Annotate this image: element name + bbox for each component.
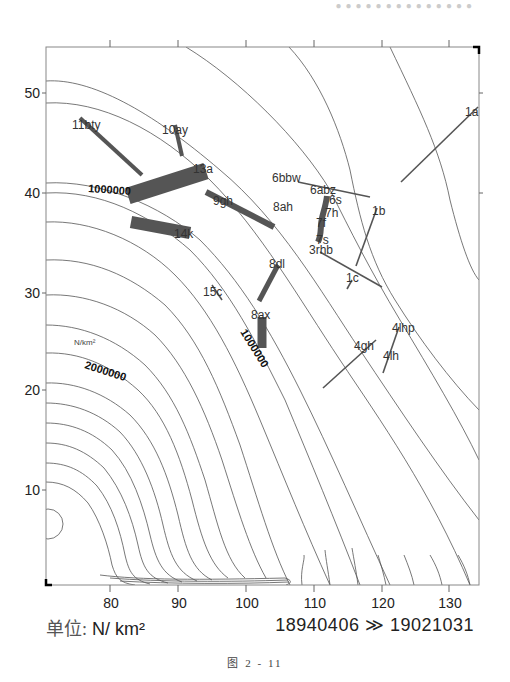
contour-unit-label: N/km² — [74, 338, 96, 347]
label-15c: 15c — [203, 285, 222, 299]
label-7h: 7h — [325, 206, 338, 220]
unit-prefix: 单位: — [46, 619, 87, 639]
y-tick-50: 50 — [24, 85, 40, 101]
label-4lhp: 4lhp — [392, 321, 415, 335]
y-tick-30: 30 — [24, 285, 40, 301]
x-tick-90: 90 — [171, 595, 187, 611]
label-4gh: 4gh — [354, 339, 374, 353]
x-tick-labels: 80 90 100 110 120 130 — [103, 595, 462, 611]
contour-label-2000000: 2000000 — [83, 358, 127, 383]
contour-label-1000000-west: 1000000 — [88, 182, 132, 197]
label-8ax: 8ax — [251, 308, 270, 322]
x-tick-80: 80 — [103, 595, 119, 611]
point-labels: 11bty 10ay 13a 9gh 14k 6bbw 6abz 6s 8ah … — [72, 105, 479, 363]
label-1b: 1b — [372, 204, 386, 218]
label-1c: 1c — [346, 271, 359, 285]
label-14k: 14k — [174, 227, 194, 241]
label-6s: 6s — [329, 193, 342, 207]
x-tick-110: 110 — [304, 595, 327, 611]
unit-label: 单位: N/ km² — [46, 614, 145, 640]
y-tick-20: 20 — [24, 382, 40, 398]
y-tick-labels: 50 40 30 20 10 — [24, 85, 40, 498]
label-1a: 1a — [465, 105, 479, 119]
x-tick-120: 120 — [371, 595, 395, 611]
label-4lh: 4lh — [383, 349, 399, 363]
y-tick-10: 10 — [24, 482, 40, 498]
label-9gh: 9gh — [213, 194, 233, 208]
label-11bty: 11bty — [72, 118, 100, 132]
y-tick-40: 40 — [24, 185, 40, 201]
x-tick-100: 100 — [235, 595, 259, 611]
top-decoration: ●●●●●●●●●●●●●● — [335, 0, 476, 11]
x-ticks-bottom — [110, 585, 449, 592]
period-label: 18940406 ≫ 19021031 — [275, 614, 474, 636]
label-7f: 7f — [316, 216, 327, 230]
figure-caption: 图 2 - 11 — [0, 654, 510, 670]
x-ticks-top — [110, 40, 449, 47]
label-8ah: 8ah — [273, 200, 293, 214]
thick-segments — [80, 118, 327, 348]
unit-value: N/ km² — [87, 619, 145, 639]
label-8dl: 8dl — [269, 257, 285, 271]
label-6bbw: 6bbw — [272, 171, 301, 185]
label-3rhb: 3rhb — [309, 243, 333, 257]
label-13a: 13a — [193, 162, 213, 176]
label-10ay: 10ay — [162, 123, 188, 137]
x-tick-130: 130 — [438, 595, 462, 611]
contour-chart: 50 40 30 20 10 80 90 100 110 120 130 100 — [0, 0, 510, 682]
